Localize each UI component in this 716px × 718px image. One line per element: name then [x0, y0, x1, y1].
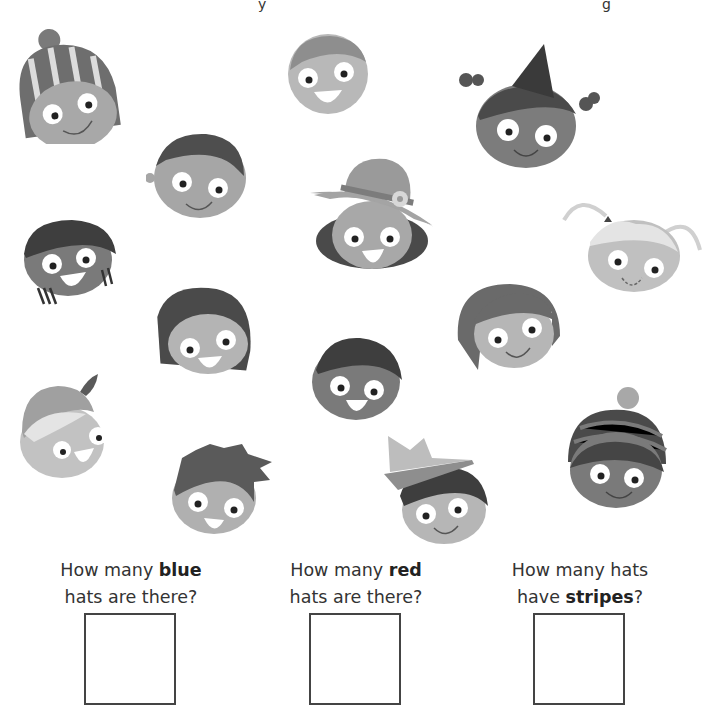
- face-party-hat: [458, 40, 602, 170]
- face-paper-crown: [384, 436, 494, 544]
- cropped-text-fragment: y: [258, 0, 266, 12]
- answer-box-stripes[interactable]: [533, 613, 625, 705]
- question-red-hats: How many red hats are there?: [256, 557, 456, 611]
- face-light-pigtails: [560, 192, 706, 294]
- face-knit-beanie: [562, 384, 674, 512]
- face-bob-girl: [454, 280, 564, 376]
- question-blue-hats: How many blue hats are there?: [31, 557, 231, 611]
- face-dark-curly-boy: [306, 332, 408, 422]
- cropped-text-fragment: g: [602, 0, 611, 12]
- face-light-hair-boy: [280, 32, 380, 114]
- question-striped-hats: How many hats have stripes?: [480, 557, 680, 611]
- face-spiky-hair: [162, 440, 276, 536]
- face-striped-beanie: [12, 24, 122, 144]
- face-braids-girl: [16, 214, 120, 306]
- face-bangs-bob: [152, 286, 258, 378]
- face-sun-hat: [310, 155, 434, 273]
- face-curly-hair-boy: [146, 126, 250, 222]
- answer-box-blue[interactable]: [84, 613, 176, 705]
- answer-box-red[interactable]: [309, 613, 401, 705]
- face-baseball-cap: [14, 372, 120, 480]
